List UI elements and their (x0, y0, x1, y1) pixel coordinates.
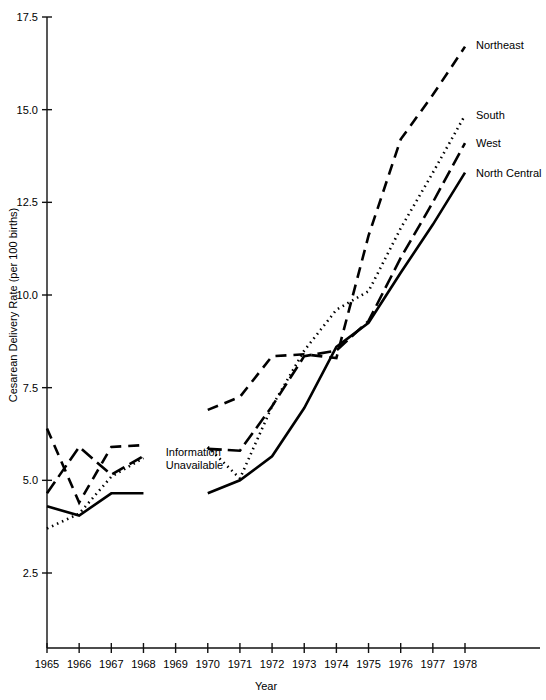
series-labels-group: NortheastSouthWestNorth Central (476, 39, 541, 179)
series-line-north-central (208, 173, 465, 494)
x-tick-label: 1974 (324, 658, 348, 670)
cesarean-delivery-rate-chart: 2.55.07.510.012.515.017.5 19651966196719… (0, 0, 546, 700)
x-axis: 1965196619671968196919701971197219731974… (35, 643, 540, 670)
y-axis-title: Cesarean Delivery Rate (per 100 births) (7, 208, 19, 402)
x-tick-label: 1971 (228, 658, 252, 670)
series-label-northeast: Northeast (476, 39, 524, 51)
x-tick-label: 1978 (453, 658, 477, 670)
data-series-group (47, 47, 465, 529)
y-tick-label: 5.0 (23, 474, 38, 486)
information-unavailable-note-line2: Unavailable (166, 459, 223, 471)
x-tick-label: 1967 (99, 658, 123, 670)
x-tick-label: 1976 (388, 658, 412, 670)
series-line-west (47, 447, 143, 493)
series-line-west (208, 143, 465, 451)
y-tick-label: 12.5 (17, 196, 38, 208)
annotations-group: InformationUnavailable (166, 446, 223, 471)
series-label-south: South (476, 109, 505, 121)
information-unavailable-note-line1: Information (166, 446, 221, 458)
x-tick-label: 1965 (35, 658, 59, 670)
y-tick-label: 7.5 (23, 382, 38, 394)
y-tick-label: 15.0 (17, 104, 38, 116)
y-tick-label: 10.0 (17, 289, 38, 301)
x-tick-label: 1972 (260, 658, 284, 670)
y-tick-label: 17.5 (17, 11, 38, 23)
x-tick-label: 1977 (421, 658, 445, 670)
x-tick-label: 1970 (196, 658, 220, 670)
x-axis-title: Year (255, 680, 278, 692)
x-tick-label: 1966 (67, 658, 91, 670)
chart-canvas: 2.55.07.510.012.515.017.5 19651966196719… (0, 0, 546, 700)
series-line-northeast (208, 47, 465, 410)
x-tick-label: 1975 (356, 658, 380, 670)
series-label-west: West (476, 137, 501, 149)
series-line-north-central (47, 493, 143, 515)
series-label-north-central: North Central (476, 167, 541, 179)
y-axis: 2.55.07.510.012.515.017.5 (17, 11, 52, 648)
x-tick-label: 1968 (131, 658, 155, 670)
y-tick-label: 2.5 (23, 567, 38, 579)
x-tick-label: 1973 (292, 658, 316, 670)
x-tick-label: 1969 (163, 658, 187, 670)
series-line-south (208, 115, 465, 478)
